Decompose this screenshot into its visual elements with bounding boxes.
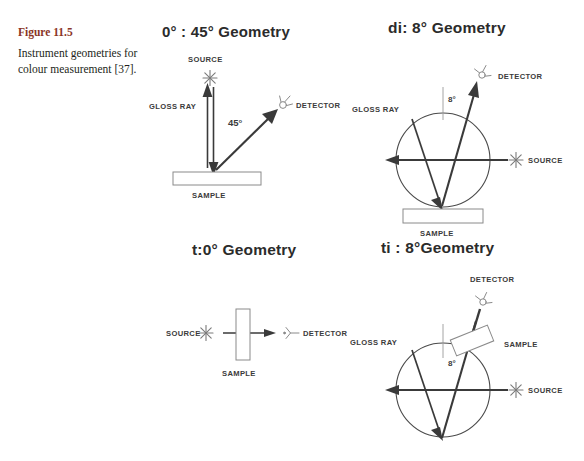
label-sample: SAMPLE [192, 191, 226, 200]
sample-plate [403, 209, 483, 223]
label-detector: DETECTOR [296, 101, 341, 110]
detector-icon [280, 96, 293, 108]
source-icon [509, 153, 523, 168]
panel-title-di-8: di: 8° Geometry [388, 19, 506, 37]
label-angle-45: 45° [228, 117, 243, 128]
label-sample: SAMPLE [420, 229, 454, 238]
panel-title-ti-8: ti : 8°Geometry [381, 239, 494, 257]
detector-ray [442, 309, 480, 438]
figure-page: Figure 11.5 Instrument geometries for co… [0, 0, 584, 461]
detector-icon [475, 66, 492, 79]
panel-title-0-45: 0° : 45° Geometry [162, 23, 290, 40]
label-source: SOURCE [528, 386, 563, 395]
label-detector: DETECTOR [303, 329, 348, 338]
label-gloss-ray: GLOSS RAY [350, 338, 397, 347]
label-sample: SAMPLE [504, 340, 538, 349]
panel-title-t-0: t:0° Geometry [192, 241, 296, 259]
sample-plate [450, 325, 493, 356]
source-icon [509, 383, 523, 398]
label-source: SOURCE [528, 156, 563, 165]
label-source: SOURCE [188, 55, 223, 64]
diagram-ti-8-geometry: DETECTOR SAMPLE GLOSS RAY 8° SOURCE [352, 266, 582, 456]
figure-caption-block: Figure 11.5 Instrument geometries for co… [18, 24, 158, 78]
label-angle-8: 8° [448, 95, 456, 104]
source-icon [199, 326, 213, 341]
diagram-t-0-geometry: SOURCE DETECTOR SAMPLE [172, 300, 372, 390]
label-detector: DETECTOR [470, 275, 515, 284]
diagram-di-8-geometry: DETECTOR 8° GLOSS RAY SOURCE SAMPLE [352, 48, 582, 238]
source-icon [203, 71, 217, 86]
label-detector: DETECTOR [498, 72, 543, 81]
diagram-0-45-geometry: SOURCE GLOSS RAY DETECTOR 45° SAMPLE [150, 50, 360, 200]
detector-icon [476, 293, 493, 306]
incident-ray [209, 87, 219, 176]
detector-icon [284, 328, 299, 339]
sample-plate [236, 309, 250, 360]
gloss-ray [412, 119, 443, 211]
label-gloss-ray: GLOSS RAY [352, 105, 399, 114]
gloss-ray [203, 83, 213, 168]
sample-plate [173, 172, 261, 185]
detector-ray [216, 109, 278, 170]
label-angle-8: 8° [448, 359, 456, 368]
label-gloss-ray: GLOSS RAY [149, 102, 196, 111]
label-sample: SAMPLE [222, 369, 256, 378]
gloss-ray [412, 350, 443, 441]
label-source: SOURCE [166, 329, 201, 338]
figure-caption-text: Instrument geometries for colour measure… [18, 45, 158, 78]
figure-number: Figure 11.5 [18, 24, 158, 41]
